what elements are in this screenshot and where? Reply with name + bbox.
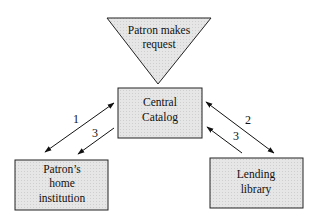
catalog-line1: Central: [143, 96, 177, 108]
edge-3-right-label: 3: [233, 129, 239, 143]
home-institution-node: Patron’s home institution: [15, 160, 108, 210]
edge-2-label: 2: [245, 113, 251, 127]
lending-line1: Lending: [237, 168, 276, 181]
home-line3: institution: [39, 192, 86, 204]
home-line1: Patron’s: [43, 163, 81, 175]
patron-request-node: Patron makes request: [107, 18, 211, 84]
edge-3-left-arrow: 3: [78, 126, 114, 154]
edge-1-arrow: 1: [45, 103, 114, 152]
home-line2: home: [49, 177, 75, 189]
request-line2: request: [142, 38, 176, 51]
catalog-line2: Catalog: [142, 111, 178, 124]
lending-library-node: Lending library: [210, 158, 303, 208]
edge-3-right-arrow: 3: [207, 127, 242, 153]
diagram-canvas: Patron makes request Central Catalog Pat…: [0, 0, 318, 224]
edge-2-arrow: 2: [206, 102, 274, 153]
lending-line2: library: [241, 183, 272, 196]
request-line1: Patron makes: [128, 24, 191, 36]
central-catalog-node: Central Catalog: [118, 88, 202, 138]
edge-1-label: 1: [73, 112, 79, 126]
edge-3-left-label: 3: [92, 126, 98, 140]
